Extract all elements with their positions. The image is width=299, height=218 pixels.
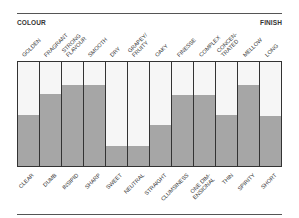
- bar-fill: [40, 94, 61, 166]
- bar-fill: [62, 85, 83, 166]
- bar-column: [40, 62, 62, 166]
- bar-column: [62, 62, 84, 166]
- bar-fill: [216, 115, 237, 166]
- top-label: GOLDEN: [21, 37, 42, 58]
- bar-column: [172, 62, 194, 166]
- top-label: GRAPEY/ FRUITY: [127, 32, 153, 58]
- colour-label: COLOUR: [17, 19, 46, 26]
- top-label: CONCEN- TRATED: [215, 31, 242, 58]
- top-label: FINESSE: [175, 37, 196, 58]
- bottom-label: SWEET: [105, 172, 123, 190]
- bar-column: [106, 62, 128, 166]
- bottom-label: SHORT: [260, 172, 278, 190]
- top-label: DRY: [109, 45, 122, 58]
- bar-fill: [84, 85, 105, 166]
- top-label: LONG: [264, 43, 279, 58]
- bar-fill: [106, 146, 127, 166]
- bottom-label: INSIPID: [61, 172, 80, 191]
- bottom-label: SHARP: [84, 172, 102, 190]
- bottom-label: ONE DIM- ENSIONAL: [188, 172, 216, 200]
- bar-column: [216, 62, 238, 166]
- bottom-label: DUMB: [41, 172, 57, 188]
- finish-label: FINISH: [260, 19, 282, 26]
- bar-fill: [150, 125, 171, 166]
- bar-column: [84, 62, 106, 166]
- top-label: OAKY: [153, 43, 168, 58]
- bar-fill: [194, 95, 215, 166]
- bar-fill: [172, 95, 193, 166]
- bar-column: [150, 62, 172, 166]
- bar-fill: [128, 146, 149, 166]
- bar-fill: [18, 115, 39, 166]
- bottom-label: SPIRITY: [236, 172, 256, 192]
- bottom-label: THIN: [221, 172, 234, 185]
- bottom-rule: [17, 214, 282, 215]
- profile-bar-chart: [17, 61, 282, 167]
- top-label: SMOOTH: [87, 36, 109, 58]
- bar-column: [18, 62, 40, 166]
- bar-column: [238, 62, 260, 166]
- top-rule: [17, 13, 282, 14]
- bottom-label: CLEAR: [18, 172, 35, 189]
- top-label: MELLOW: [242, 37, 263, 58]
- bar-fill: [238, 85, 259, 166]
- bar-column: [260, 62, 281, 166]
- bar-column: [194, 62, 216, 166]
- bar-fill: [260, 116, 281, 166]
- bar-column: [128, 62, 150, 166]
